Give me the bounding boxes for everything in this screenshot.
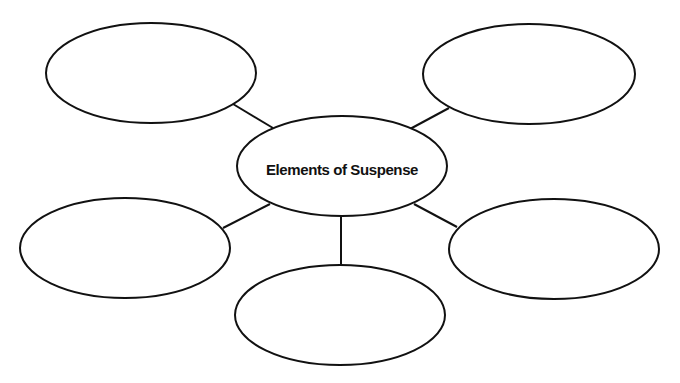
node-middle-left-ellipse[interactable]: [20, 198, 230, 298]
center-node-label: Elements of Suspense: [266, 161, 418, 178]
node-middle-right[interactable]: [449, 199, 659, 299]
node-top-left-ellipse[interactable]: [46, 23, 256, 123]
node-middle-right-ellipse[interactable]: [449, 199, 659, 299]
connector-middle-left: [223, 204, 270, 228]
connector-top-left: [233, 104, 273, 128]
node-top-right[interactable]: [423, 24, 635, 124]
node-bottom[interactable]: [235, 265, 445, 365]
web-organizer-diagram: Elements of Suspense: [0, 0, 680, 383]
connector-middle-right: [414, 204, 457, 227]
connector-top-right: [410, 108, 449, 129]
node-middle-left[interactable]: [20, 198, 230, 298]
center-node: Elements of Suspense: [237, 116, 447, 216]
node-top-left[interactable]: [46, 23, 256, 123]
node-top-right-ellipse[interactable]: [423, 24, 635, 124]
node-bottom-ellipse[interactable]: [235, 265, 445, 365]
